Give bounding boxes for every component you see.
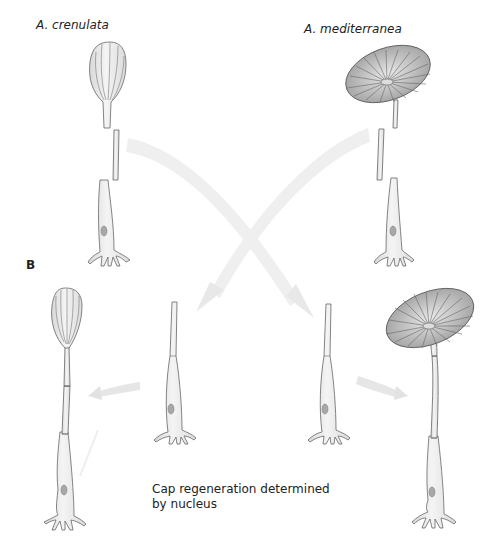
nucleus bbox=[101, 226, 107, 236]
nucleus bbox=[390, 226, 396, 236]
nucleus bbox=[429, 487, 435, 497]
nucleus bbox=[61, 485, 67, 495]
regenerated-crenulata-cell bbox=[44, 288, 86, 530]
nucleus bbox=[168, 404, 174, 414]
mediterranea-stalk-segment bbox=[377, 129, 384, 180]
regenerated-mediterranea-cell bbox=[378, 277, 483, 528]
graft-mediterranea-base bbox=[308, 304, 350, 444]
arrow-regeneration-left bbox=[88, 382, 140, 400]
arrow-regeneration-right bbox=[356, 376, 408, 400]
crenulata-base bbox=[88, 180, 130, 266]
graft-crenulata-base bbox=[154, 302, 196, 444]
acetabularia-diagram bbox=[0, 0, 500, 548]
mediterranea-base bbox=[374, 178, 414, 266]
crenulata-stalk-segment bbox=[113, 130, 119, 180]
mediterranea-cap bbox=[338, 35, 438, 128]
faint-line bbox=[80, 430, 98, 476]
crenulata-cap bbox=[90, 42, 126, 128]
nucleus bbox=[322, 404, 328, 414]
